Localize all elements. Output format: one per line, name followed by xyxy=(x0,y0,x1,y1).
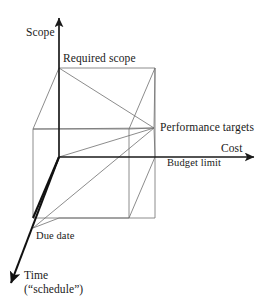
cube-edge-depth-bottom-right xyxy=(129,157,155,218)
node-label-due-date: Due date xyxy=(36,230,74,241)
ray-duedate-to-origin xyxy=(33,218,59,228)
cube-edge-depth-top-right xyxy=(129,68,155,129)
cube-back-face xyxy=(33,129,129,218)
axis-sublabel-time-schedule: (“schedule”) xyxy=(24,283,83,295)
diagram-canvas: Scope Required scope Performance targets… xyxy=(0,0,265,306)
node-label-performance-targets: Performance targets xyxy=(160,121,254,133)
cube-front-face xyxy=(59,68,155,218)
node-label-required-scope: Required scope xyxy=(63,52,136,64)
node-label-budget-limit: Budget limit xyxy=(167,157,221,168)
diagonal-scope-to-target xyxy=(59,68,154,128)
cube-edge-depth-top-left xyxy=(33,68,59,129)
internal-diagonals xyxy=(33,68,155,228)
diagonal-origin-to-target xyxy=(59,128,154,157)
axis-time xyxy=(11,157,59,283)
axis-label-time: Time xyxy=(24,269,48,281)
axis-label-scope: Scope xyxy=(26,26,55,38)
axis-label-cost: Cost xyxy=(221,142,243,154)
